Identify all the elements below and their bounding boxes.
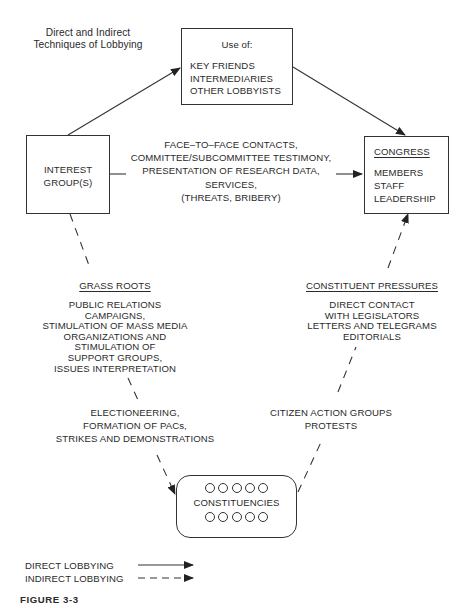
interest-group-box: INTEREST GROUP(S): [26, 135, 110, 214]
citizen-action-item: CITIZEN ACTION GROUPS: [266, 406, 396, 419]
constituent-circle-icon: [245, 512, 255, 522]
direct-item: (THREATS, BRIBERY): [126, 191, 336, 204]
direct-item: FACE–TO–FACE CONTACTS,: [126, 138, 336, 151]
grass-roots-action: ELECTIONEERING,: [45, 406, 225, 419]
constituent-circle-icon: [218, 512, 228, 522]
congress-box: CONGRESS MEMBERS STAFF LEADERSHIP: [364, 136, 449, 214]
use-of-box: Use of: KEY FRIENDS INTERMEDIARIES OTHER…: [181, 28, 293, 105]
citizen-action-item: PROTESTS: [266, 419, 396, 432]
use-of-item: OTHER LOBBYISTS: [190, 85, 292, 98]
congress-header: CONGRESS: [365, 146, 448, 157]
constituent-circle-icon: [258, 483, 268, 493]
direct-item: SERVICES,: [126, 178, 336, 191]
constituent-circle-icon: [258, 512, 268, 522]
grass-roots-header: GRASS ROOTS: [79, 280, 150, 291]
circles-top: [177, 483, 296, 493]
legend-direct-label: DIRECT LOBBYING: [25, 559, 124, 572]
congress-item: MEMBERS: [374, 166, 448, 179]
interest-line-2: GROUP(S): [27, 177, 109, 190]
diagram-title: Direct and Indirect Techniques of Lobbyi…: [28, 27, 148, 51]
arrow-grassroots-to-constituencies: [157, 455, 175, 494]
direct-item: PRESENTATION OF RESEARCH DATA,: [126, 164, 336, 177]
direct-item: COMMITTEE/SUBCOMMITTEE TESTIMONY,: [126, 151, 336, 164]
title-line-2: Techniques of Lobbying: [28, 39, 148, 51]
direct-techniques-text: FACE–TO–FACE CONTACTS, COMMITTEE/SUBCOMM…: [126, 138, 336, 204]
arrow-interest-to-useof: [68, 68, 180, 135]
congress-item: STAFF: [374, 179, 448, 192]
arrow-useof-to-congress: [293, 67, 405, 135]
title-line-1: Direct and Indirect: [28, 27, 148, 39]
citizen-action-text: CITIZEN ACTION GROUPS PROTESTS: [266, 406, 396, 432]
constituent-circle-icon: [245, 483, 255, 493]
arrow-pressures-to-congress: [388, 214, 408, 268]
grass-roots-item: PUBLIC RELATIONS: [20, 300, 210, 311]
constituent-pressures-section: CONSTITUENT PRESSURES DIRECT CONTACT WIT…: [302, 280, 442, 342]
use-of-item: INTERMEDIARIES: [190, 73, 292, 86]
congress-item: LEADERSHIP: [374, 192, 448, 205]
pressure-item: EDITORIALS: [302, 332, 442, 343]
constituent-circle-icon: [205, 483, 215, 493]
interest-line-1: INTEREST: [27, 164, 109, 177]
constituent-circle-icon: [232, 512, 242, 522]
grass-roots-section: GRASS ROOTS PUBLIC RELATIONS CAMPAIGNS, …: [20, 280, 210, 374]
constituent-circle-icon: [232, 483, 242, 493]
pressure-item: DIRECT CONTACT: [302, 300, 442, 311]
constituencies-box: CONSTITUENCIES: [176, 475, 297, 538]
constituent-pressures-header: CONSTITUENT PRESSURES: [306, 280, 438, 291]
grass-roots-action: FORMATION OF PACs,: [45, 419, 225, 432]
constituencies-label: CONSTITUENCIES: [177, 497, 296, 508]
grass-roots-item: ISSUES INTERPRETATION: [20, 364, 210, 375]
circles-bottom: [177, 512, 296, 522]
constituent-circle-icon: [218, 483, 228, 493]
grass-roots-actions: ELECTIONEERING, FORMATION OF PACs, STRIK…: [45, 406, 225, 446]
use-of-item: KEY FRIENDS: [190, 60, 292, 73]
constituent-circle-icon: [205, 512, 215, 522]
grass-roots-item: SUPPORT GROUPS,: [20, 353, 210, 364]
use-of-header: Use of:: [182, 39, 292, 50]
legend: DIRECT LOBBYING INDIRECT LOBBYING: [25, 559, 124, 585]
legend-indirect-label: INDIRECT LOBBYING: [25, 572, 124, 585]
grass-roots-action: STRIKES AND DEMONSTRATIONS: [45, 432, 225, 445]
figure-caption: FIGURE 3-3: [20, 594, 79, 605]
